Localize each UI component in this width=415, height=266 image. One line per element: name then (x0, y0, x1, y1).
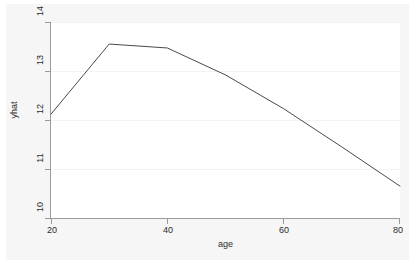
y-tick-12 (45, 120, 50, 121)
y-tick-10 (45, 218, 50, 219)
gridline-11 (51, 169, 400, 170)
x-tick-label-60: 60 (264, 225, 304, 235)
y-tick-label-14-text: 14 (35, 0, 45, 27)
gridline-12 (51, 120, 400, 121)
y-tick-11 (45, 169, 50, 170)
y-tick-label-12-text: 12 (35, 93, 45, 125)
y-tick-13 (45, 71, 50, 72)
y-tick-label-11: 11 (0, 169, 43, 170)
y-tick-label-10: 10 (0, 218, 43, 219)
figure: 14 13 12 11 10 20 40 60 80 age yhat (0, 0, 415, 266)
x-tick-40 (167, 219, 168, 224)
x-tick-60 (283, 219, 284, 224)
x-tick-label-20: 20 (32, 225, 72, 235)
gridline-14 (51, 22, 400, 23)
y-tick-label-13-text: 13 (35, 44, 45, 76)
gridline-13 (51, 71, 400, 72)
y-axis-title: yhat (9, 90, 19, 130)
x-axis-title: age (51, 239, 400, 249)
x-tick-80 (399, 219, 400, 224)
y-tick-label-13: 13 (0, 71, 43, 72)
y-tick-label-10-text: 10 (35, 191, 45, 223)
x-tick-20 (51, 219, 52, 224)
y-tick-14 (45, 22, 50, 23)
x-tick-label-80: 80 (378, 225, 415, 235)
y-tick-label-14: 14 (0, 22, 43, 23)
y-tick-label-12: 12 (0, 120, 43, 121)
x-axis-line (50, 218, 400, 219)
y-tick-label-11-text: 11 (35, 142, 45, 174)
y-axis-line (50, 22, 51, 219)
x-tick-label-40: 40 (148, 225, 188, 235)
